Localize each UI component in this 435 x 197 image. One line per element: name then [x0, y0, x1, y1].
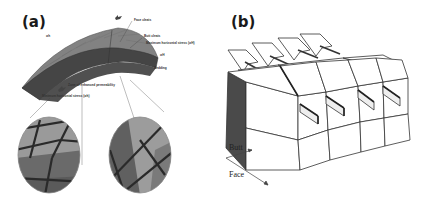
- block-dark-side: [226, 72, 246, 170]
- sigma-h-label: σh: [46, 34, 50, 38]
- right-magnified-inset: [105, 115, 175, 195]
- zone-permeability-label: Zone of enhanced permeability: [68, 83, 115, 87]
- min-stress-label: Minimum horizontal stress (σh): [42, 94, 90, 98]
- butt-cleats-label: Butt cleats: [144, 34, 161, 38]
- face-cleats-label: Face cleats: [134, 18, 151, 22]
- face-direction-label: Face: [229, 170, 245, 179]
- bedding-label: Bedding: [154, 66, 167, 70]
- panel-label-a: (a): [22, 13, 46, 31]
- panel-label-b: (b): [231, 13, 255, 31]
- sigma-H-arrow-icon: [115, 15, 122, 20]
- face-arrowhead-icon: [264, 181, 268, 185]
- max-stress-label: Maximum horizontal stress (σH): [146, 41, 195, 45]
- left-magnified-inset: [15, 115, 85, 195]
- butt-direction-label: Butt: [229, 143, 244, 152]
- panel-b-cleat-block: Butt Face (b): [218, 0, 435, 197]
- panel-a-anticline-cleats: Face cleats Butt cleats Maximum horizont…: [0, 0, 218, 197]
- sigma-H-label: σH: [160, 53, 165, 57]
